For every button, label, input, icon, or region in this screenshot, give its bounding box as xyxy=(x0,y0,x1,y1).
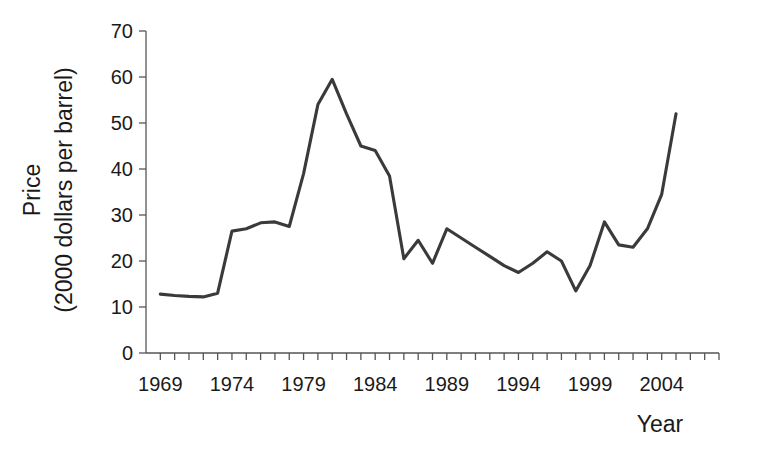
x-tick-label: 1999 xyxy=(568,373,613,395)
x-tick-label: 1989 xyxy=(425,373,470,395)
x-tick-label: 1984 xyxy=(353,373,398,395)
y-tick-label: 0 xyxy=(122,342,133,364)
y-axis-ticks xyxy=(139,31,146,353)
y-axis-title-line2: (2000 dollars per barrel) xyxy=(51,67,77,312)
y-tick-label: 30 xyxy=(111,204,133,226)
y-axis-title-line1: Price xyxy=(19,164,45,216)
line-chart: Price (2000 dollars per barrel) Year 010… xyxy=(0,0,764,457)
price-series-line xyxy=(160,79,676,297)
x-axis-tick-labels: 19691974197919841989199419992004 xyxy=(138,373,684,395)
y-tick-label: 70 xyxy=(111,20,133,42)
x-axis-title: Year xyxy=(637,411,684,437)
y-axis-tick-labels: 010203040506070 xyxy=(111,20,133,364)
y-tick-label: 40 xyxy=(111,158,133,180)
x-tick-label: 1974 xyxy=(210,373,255,395)
y-tick-label: 60 xyxy=(111,66,133,88)
x-tick-label: 1979 xyxy=(281,373,326,395)
y-axis-title: Price (2000 dollars per barrel) xyxy=(19,67,77,312)
y-tick-label: 10 xyxy=(111,296,133,318)
y-tick-label: 50 xyxy=(111,112,133,134)
y-tick-label: 20 xyxy=(111,250,133,272)
chart-container: Price (2000 dollars per barrel) Year 010… xyxy=(0,0,764,457)
x-axis-ticks xyxy=(160,353,719,360)
x-tick-label: 1994 xyxy=(496,373,541,395)
x-tick-label: 2004 xyxy=(639,373,684,395)
x-tick-label: 1969 xyxy=(138,373,183,395)
